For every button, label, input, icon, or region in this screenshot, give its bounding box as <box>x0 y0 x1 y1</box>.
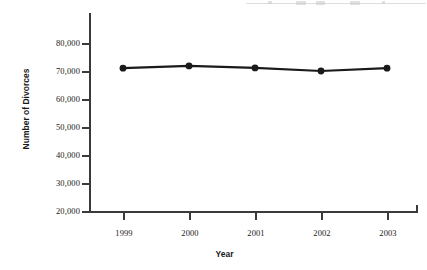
data-point <box>120 65 127 72</box>
x-axis-title: Year <box>0 249 427 259</box>
data-point-markers <box>120 63 391 75</box>
data-point <box>318 68 325 75</box>
data-series-layer <box>0 0 427 270</box>
data-point <box>252 65 259 72</box>
y-axis-title: Number of Divorces <box>21 39 31 179</box>
chart-screenshot: 80,000 70,000 60,000 50,000 40,000 30,00… <box>0 0 427 270</box>
line-chart: 80,000 70,000 60,000 50,000 40,000 30,00… <box>0 0 427 270</box>
data-point <box>186 63 193 70</box>
data-point <box>384 65 391 72</box>
